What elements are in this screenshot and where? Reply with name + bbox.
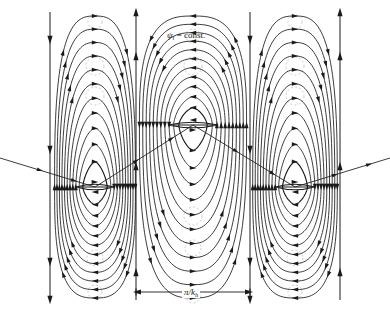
flow-arrowhead: [70, 97, 74, 104]
streamline-path: [67, 84, 123, 255]
flow-arrowhead: [149, 35, 154, 42]
streamline-contour: [264, 82, 326, 257]
flow-arrowhead: [92, 126, 98, 130]
flow-arrowhead: [159, 58, 164, 65]
flow-arrowhead: [92, 180, 99, 184]
streamline-contour: [174, 95, 213, 170]
flow-arrowhead: [269, 97, 273, 104]
flow-arrowhead: [92, 54, 98, 58]
flow-arrowhead: [92, 14, 98, 18]
flow-arrowhead: [67, 256, 71, 263]
flow-arrowhead: [266, 85, 270, 92]
flow-arrowhead: [141, 122, 145, 128]
flow-arrowhead: [292, 270, 298, 274]
flow-arrowhead: [190, 95, 196, 99]
boundary-flow-arrowhead: [133, 268, 138, 276]
flow-arrowhead: [61, 49, 65, 56]
streamline-figure: ψi = const. π/kh: [0, 0, 390, 315]
flow-arrowhead: [151, 246, 155, 253]
faint-dashed-circle: [286, 87, 304, 105]
flow-arrowhead: [92, 253, 98, 257]
flow-arrowhead: [292, 14, 298, 18]
flow-arrowhead: [292, 27, 298, 31]
streamline-plot-canvas: [0, 0, 390, 315]
flow-arrowhead: [292, 288, 298, 292]
flow-arrowhead: [264, 73, 268, 80]
flow-arrowhead: [335, 184, 339, 190]
flow-arrowhead: [159, 122, 163, 128]
flow-arrowhead: [190, 213, 196, 217]
flow-arrowhead: [292, 82, 298, 86]
flow-arrowhead: [148, 122, 152, 128]
streamline-path: [73, 113, 117, 236]
flow-arrowhead: [190, 256, 196, 260]
flow-arrowhead: [318, 84, 322, 91]
streamline-path: [275, 128, 315, 226]
boundary-flow-arrowhead: [247, 258, 252, 266]
streamline-contour: [253, 27, 337, 291]
boundary-flow-arrowhead: [47, 146, 52, 154]
flow-arrowhead: [190, 14, 196, 18]
flow-arrowhead: [317, 240, 321, 247]
streamline-path: [70, 98, 120, 245]
wavelength-dimension-label: π/kh: [182, 287, 200, 298]
streamline-contour: [68, 96, 122, 247]
flow-arrowhead: [292, 96, 298, 100]
separatrix-arrowhead: [168, 137, 174, 142]
streamline-path: [283, 162, 308, 205]
boundary-flow-arrowhead: [247, 36, 252, 44]
flow-arrowhead: [292, 243, 298, 247]
streamline-path: [260, 56, 329, 272]
flow-arrowhead: [137, 122, 141, 128]
flow-arrowhead: [92, 296, 98, 300]
flow-arrowhead: [65, 73, 69, 80]
flow-arrowhead: [227, 122, 231, 128]
flow-arrowhead: [325, 263, 329, 270]
flow-arrowhead: [190, 75, 196, 79]
flow-arrowhead: [190, 269, 196, 273]
faint-dashed-circle: [288, 285, 302, 299]
streamline-contour: [71, 111, 119, 238]
flow-arrowhead: [190, 85, 196, 89]
flow-arrowhead: [292, 234, 298, 238]
streamline-contour: [65, 82, 125, 257]
flow-arrowhead: [224, 59, 229, 66]
flow-arrowhead: [155, 122, 159, 128]
flow-arrowhead: [53, 184, 57, 190]
boundary-flow-arrowhead: [337, 52, 342, 60]
flow-arrowhead: [270, 241, 274, 248]
boundary-flow-arrowhead: [337, 162, 342, 170]
flow-arrowhead: [162, 65, 167, 72]
flow-arrowhead: [234, 122, 238, 128]
boundary-line: [47, 12, 52, 304]
flow-arrowhead: [292, 126, 298, 130]
k-subscript: h: [195, 291, 198, 298]
flow-arrowhead: [69, 249, 73, 256]
flow-arrowhead: [259, 49, 263, 56]
faint-dashed-circle: [86, 87, 104, 105]
flow-arrowhead: [226, 234, 230, 241]
flow-arrowhead: [231, 122, 235, 128]
flow-arrowhead: [115, 96, 119, 103]
flow-arrowhead: [219, 122, 223, 128]
faint-dashed-circle: [185, 240, 201, 256]
flow-arrowhead: [163, 122, 167, 128]
flow-arrowhead: [327, 271, 331, 278]
flow-arrowhead: [119, 248, 123, 255]
streamline-contour: [55, 27, 135, 291]
streamline-path: [272, 113, 318, 236]
flow-arrowhead: [92, 288, 98, 292]
streamline-contour: [148, 39, 239, 259]
flow-arrowhead: [190, 242, 196, 246]
flow-arrowhead: [92, 243, 98, 247]
streamline-contour: [270, 111, 320, 238]
streamline-path: [83, 162, 107, 205]
flow-arrowhead: [234, 36, 239, 43]
flow-arrowhead: [292, 40, 298, 44]
scale-bar-left-arrowhead: [133, 290, 141, 295]
streamline-contour: [283, 160, 308, 207]
flow-arrowhead: [323, 61, 327, 68]
boundary-end-arrowhead: [47, 296, 52, 304]
flow-arrowhead: [261, 271, 265, 278]
faint-dashed-circle: [288, 15, 302, 29]
